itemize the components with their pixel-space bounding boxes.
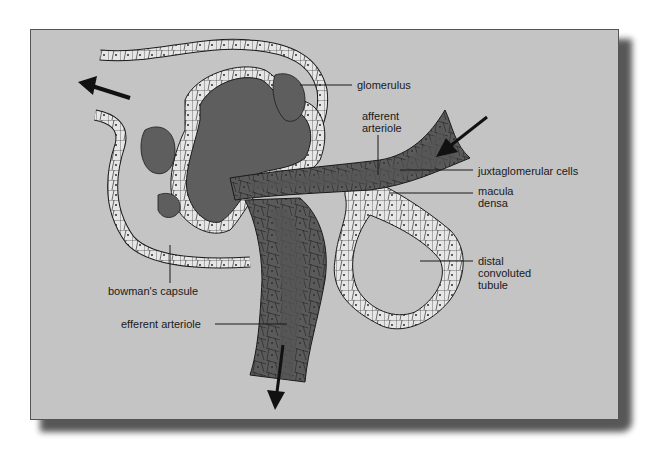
label-macula-densa: macula densa [478,185,513,209]
distal-convoluted-tubule [334,170,463,329]
label-juxtaglomerular-cells: juxtaglomerular cells [478,165,578,177]
label-distal-convoluted-tubule: distal convoluted tubule [478,255,531,291]
kidney-diagram [0,0,655,450]
label-afferent-arteriole: afferent arteriole [362,110,402,134]
label-bowmans-capsule: bowman's capsule [108,285,198,297]
label-glomerulus: glomerulus [357,79,411,91]
outflow-arrow-left [78,76,130,98]
label-efferent-arteriole: efferent arteriole [121,318,201,330]
efferent-arteriole [245,198,326,382]
